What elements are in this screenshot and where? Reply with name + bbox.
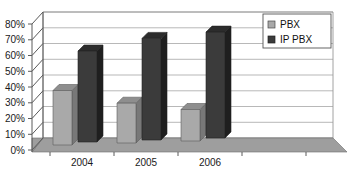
y-tick-label: 30% — [5, 97, 25, 108]
y-axis — [28, 12, 43, 152]
x-category-label: 2004 — [71, 157, 94, 168]
bar-2005-pbx[interactable] — [117, 97, 142, 143]
y-tick-label: 0% — [11, 145, 26, 156]
legend-label-pbx: PBX — [280, 19, 300, 30]
y-tick-label: 40% — [5, 82, 25, 93]
y-axis-tick-labels: 80% 70% 60% 50% 40% 30% 20% 10% 0% — [5, 19, 25, 156]
bar-2004-pbx[interactable] — [53, 85, 78, 146]
bar-2005-ip-pbx[interactable] — [142, 32, 167, 140]
y-tick-label: 80% — [5, 19, 25, 30]
chart-container: 80% 70% 60% 50% 40% 30% 20% 10% 0% — [0, 0, 349, 179]
bar-chart: 80% 70% 60% 50% 40% 30% 20% 10% 0% — [0, 0, 349, 179]
y-tick-label: 10% — [5, 129, 25, 140]
legend-swatch-ip-pbx — [268, 36, 275, 43]
y-tick-label: 50% — [5, 66, 25, 77]
chart-legend: PBX IP PBX — [263, 14, 331, 48]
bar-2006-ip-pbx[interactable] — [206, 26, 231, 138]
x-axis — [50, 152, 306, 156]
legend-swatch-pbx — [268, 21, 275, 28]
y-tick-label: 20% — [5, 113, 25, 124]
x-category-label: 2006 — [199, 157, 222, 168]
y-tick-label: 70% — [5, 34, 25, 45]
legend-item-ip-pbx[interactable]: IP PBX — [268, 34, 312, 45]
x-axis-category-labels: 2004 2005 2006 — [71, 157, 222, 168]
bar-2006-pbx[interactable] — [181, 104, 206, 142]
y-tick-label: 60% — [5, 50, 25, 61]
bar-2004-ip-pbx[interactable] — [78, 45, 103, 142]
x-category-label: 2005 — [135, 157, 158, 168]
legend-label-ip-pbx: IP PBX — [280, 34, 312, 45]
